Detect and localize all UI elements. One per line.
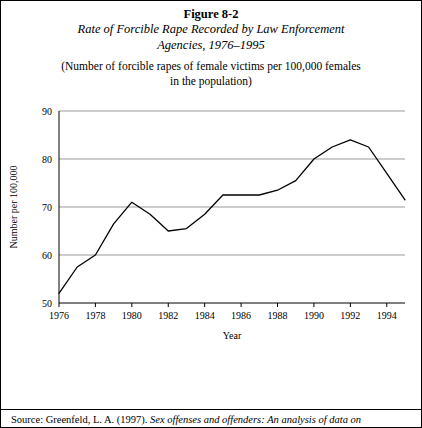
chart-area: 5060708090197619781980198219841986198819… (1, 97, 422, 347)
y-tick-label: 90 (42, 106, 52, 117)
y-tick-label: 60 (42, 250, 52, 261)
figure-number: Figure 8-2 (1, 7, 421, 22)
figure-page: Figure 8-2 Rate of Forcible Rape Recorde… (0, 0, 422, 428)
figure-title-line1: Rate of Forcible Rape Recorded by Law En… (1, 22, 421, 38)
x-tick-label: 1976 (49, 310, 69, 321)
x-tick-label: 1978 (85, 310, 105, 321)
y-tick-label: 80 (42, 154, 52, 165)
figure-subtitle-line1: (Number of forcible rapes of female vict… (1, 53, 421, 74)
x-axis-title: Year (223, 330, 242, 341)
figure-subtitle-line2: in the population) (1, 74, 421, 89)
x-tick-label: 1982 (158, 310, 178, 321)
x-tick-label: 1994 (377, 310, 397, 321)
source-italic: Sex offenses and offenders: An analysis … (150, 414, 361, 425)
x-tick-label: 1988 (268, 310, 288, 321)
figure-title-line2: Agencies, 1976–1995 (1, 38, 421, 54)
x-tick-label: 1984 (195, 310, 215, 321)
x-tick-label: 1992 (340, 310, 360, 321)
figure-header: Figure 8-2 Rate of Forcible Rape Recorde… (1, 1, 421, 89)
y-tick-label: 70 (42, 202, 52, 213)
source-note: Source: Greenfeld, L. A. (1997). Sex off… (1, 413, 421, 426)
x-tick-label: 1990 (304, 310, 324, 321)
footer-divider (1, 409, 421, 410)
x-tick-label: 1980 (122, 310, 142, 321)
x-tick-label: 1986 (231, 310, 251, 321)
line-chart: 5060708090197619781980198219841986198819… (1, 97, 422, 347)
y-tick-label: 50 (42, 298, 52, 309)
data-series-line (59, 140, 405, 294)
source-lead: Source: Greenfeld, L. A. (1997). (11, 414, 147, 425)
y-axis-title: Number per 100,000 (8, 165, 19, 248)
